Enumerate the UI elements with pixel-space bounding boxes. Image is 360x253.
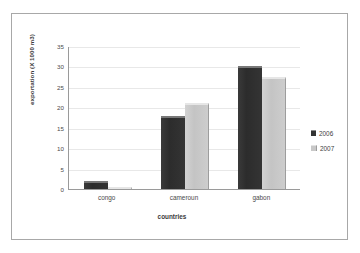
y-axis-tick-label: 10 <box>42 145 64 152</box>
x-axis-category-label: cameroun <box>145 194 222 201</box>
x-axis-title: countries <box>47 213 297 220</box>
legend-label: 2006 <box>319 130 333 137</box>
legend-swatch-icon <box>311 145 317 151</box>
legend-item-2007[interactable]: 2007 <box>311 144 351 152</box>
bar-chart: exportation (X 1000 m3) 05101520253035 c… <box>12 14 347 239</box>
bar-gabon-2006 <box>238 66 262 189</box>
y-axis-tick-label: 35 <box>42 43 64 50</box>
legend-swatch-icon <box>311 130 316 136</box>
gridline <box>69 47 300 48</box>
plot-area <box>68 47 300 190</box>
y-axis-tick-label: 5 <box>42 166 64 173</box>
x-axis-category-label: congo <box>68 194 145 201</box>
figure-frame: exportation (X 1000 m3) 05101520253035 c… <box>11 13 348 240</box>
x-axis-category-label: gabon <box>223 194 300 201</box>
y-axis-tick-label: 30 <box>42 63 64 70</box>
bar-cameroun-2006 <box>161 116 185 189</box>
bar-body <box>161 116 185 189</box>
bar-body <box>84 181 108 189</box>
y-axis-tick-label: 0 <box>42 186 64 193</box>
legend-label: 2007 <box>320 145 334 152</box>
gridline <box>69 67 300 68</box>
bar-body <box>262 77 286 189</box>
legend-item-2006[interactable]: 2006 <box>311 129 351 137</box>
chart-legend: 20062007 <box>311 129 351 159</box>
x-axis-category-labels: congocameroungabon <box>68 194 300 208</box>
bar-body <box>185 103 209 189</box>
y-axis-tick-label: 20 <box>42 104 64 111</box>
bar-body <box>108 187 132 189</box>
bar-congo-2006 <box>84 181 108 189</box>
y-axis-tick-label: 25 <box>42 84 64 91</box>
bar-gabon-2007 <box>262 77 286 189</box>
bar-body <box>238 66 262 189</box>
y-axis-tick-label: 15 <box>42 125 64 132</box>
bar-congo-2007 <box>108 188 132 190</box>
bar-cameroun-2007 <box>185 103 209 189</box>
